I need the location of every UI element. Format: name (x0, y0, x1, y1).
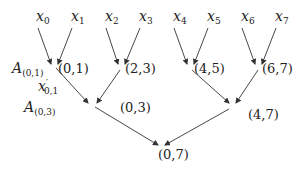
leaf-x4: x4 (173, 10, 187, 25)
edge-x1-01 (58, 28, 72, 64)
annotation-A-0-3: A(0,3) (24, 101, 55, 116)
edge-x6-67 (242, 28, 255, 64)
edge-23-03 (97, 70, 120, 103)
edge-x3-23 (125, 28, 140, 64)
leaf-x1: x1 (71, 10, 85, 25)
leaf-x6: x6 (241, 10, 255, 25)
edge-x5-45 (194, 28, 208, 64)
node-6-7: (6,7) (262, 62, 293, 75)
edge-x2-23 (106, 28, 118, 64)
node-4-7: (4,7) (248, 108, 279, 121)
edge-x0-01 (38, 28, 51, 64)
node-0-7: (0,7) (158, 148, 189, 161)
edge-x7-67 (262, 28, 276, 64)
leaf-x7: x7 (275, 10, 289, 25)
leaf-x5: x5 (207, 10, 221, 25)
node-0-1: (0,1) (58, 62, 89, 75)
annotation-A-0-1: A(0,1) (12, 62, 43, 77)
edge-x4-45 (174, 28, 187, 64)
node-4-5: (4,5) (194, 62, 225, 75)
edge-47-07 (165, 109, 229, 145)
annotation-x-prime-0-1: x′0,1 (38, 80, 58, 95)
edge-67-47 (236, 70, 258, 103)
leaf-x0: x0 (36, 10, 50, 25)
leaf-x3: x3 (139, 10, 153, 25)
node-2-3: (2,3) (125, 62, 156, 75)
node-0-3: (0,3) (120, 101, 151, 114)
leaf-x2: x2 (105, 10, 119, 25)
